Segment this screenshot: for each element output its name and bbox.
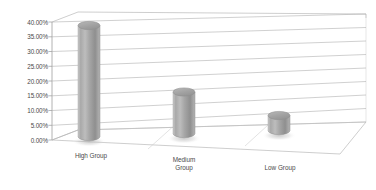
y-tick-label: 5.00% <box>4 122 48 129</box>
y-tick-label: 35.00% <box>4 33 48 40</box>
bar-medium-group <box>167 88 201 144</box>
y-axis-ticks <box>49 22 53 140</box>
category-label-low-group: Low Group <box>247 164 313 172</box>
y-tick-label: 30.00% <box>4 48 48 55</box>
y-axis-labels: 40.00% 35.00% 30.00% 25.00% 20.00% 15.00… <box>0 0 48 190</box>
y-tick-label: 40.00% <box>4 19 48 26</box>
y-tick-label: 15.00% <box>4 92 48 99</box>
y-tick-label: 10.00% <box>4 107 48 114</box>
y-tick-label: 20.00% <box>4 78 48 85</box>
y-tick-label: 0.00% <box>4 137 48 144</box>
bar-high-group <box>72 21 106 146</box>
category-label-medium-group: Medium Group <box>152 156 216 172</box>
category-label-high-group: High Group <box>55 152 127 160</box>
cylinder-bar-chart: 40.00% 35.00% 30.00% 25.00% 20.00% 15.00… <box>0 0 376 190</box>
y-tick-label: 25.00% <box>4 63 48 70</box>
